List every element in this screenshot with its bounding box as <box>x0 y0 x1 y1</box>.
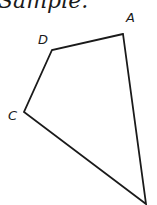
quadrilateral-diagram: A D C <box>0 0 157 205</box>
vertex-label-c: C <box>8 108 18 123</box>
quadrilateral-shape <box>24 34 146 204</box>
vertex-label-d: D <box>38 32 48 47</box>
vertex-label-a: A <box>125 10 135 25</box>
